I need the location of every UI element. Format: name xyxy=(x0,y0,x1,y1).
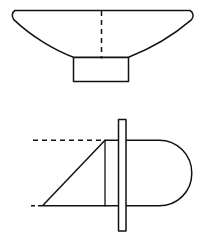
hull-plan-outline xyxy=(43,140,192,206)
technical-drawing-canvas xyxy=(0,0,206,236)
drawing-svg xyxy=(0,0,206,236)
hull-outline-upper xyxy=(12,11,193,58)
lower-plan-view xyxy=(31,120,192,232)
upper-front-section-view xyxy=(12,11,193,82)
vertical-fin-bar xyxy=(119,120,127,232)
skeg-box xyxy=(74,58,129,82)
